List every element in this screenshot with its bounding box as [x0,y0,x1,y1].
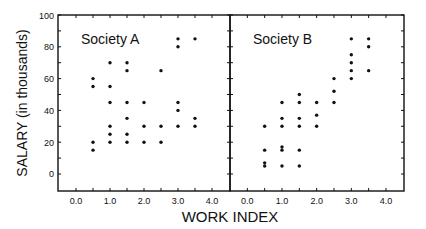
data-point [125,133,128,136]
data-point [108,140,111,143]
data-point [176,45,179,48]
x-tick-label: 3.0 [345,196,358,206]
data-point [263,161,266,164]
data-point [193,37,196,40]
x-tick-label: 0.0 [241,196,254,206]
data-point [367,45,370,48]
data-point [280,148,283,151]
x-axis-label: WORK INDEX [182,208,279,225]
data-point [332,77,335,80]
data-point [91,85,94,88]
x-tick-label: 2.0 [310,196,323,206]
data-point [367,69,370,72]
data-point [159,69,162,72]
data-point [108,85,111,88]
data-point [91,77,94,80]
x-tick-label: 2.0 [138,196,151,206]
data-point [193,117,196,120]
data-point [159,140,162,143]
data-point [332,90,335,93]
data-point [125,140,128,143]
data-point [280,125,283,128]
scatter-chart: 0.01.02.03.04.0020406080100 0.01.02.03.0… [0,0,426,229]
data-point [280,145,283,148]
data-point [193,125,196,128]
data-point [315,125,318,128]
y-tick-label: 20 [44,138,54,148]
data-point [176,125,179,128]
data-point [176,109,179,112]
data-point [142,140,145,143]
y-tick-label: 80 [44,42,54,52]
y-tick-label: 100 [39,11,54,21]
data-point [280,101,283,104]
data-point [125,117,128,120]
x-tick-label: 1.0 [276,196,289,206]
data-point [280,117,283,120]
data-point [108,101,111,104]
data-point [315,101,318,104]
data-point [298,93,301,96]
y-tick-label: 0 [49,169,54,179]
data-point [125,69,128,72]
data-point [176,37,179,40]
panel-b-title: Society B [253,31,312,47]
data-point [142,101,145,104]
data-point [108,61,111,64]
data-point [315,113,318,116]
y-tick-label: 60 [44,74,54,84]
x-tick-label: 0.0 [70,196,83,206]
data-point [159,125,162,128]
data-point [142,125,145,128]
data-point [280,164,283,167]
data-point [350,53,353,56]
x-tick-label: 4.0 [380,196,393,206]
data-point [298,164,301,167]
data-point [298,117,301,120]
data-point [298,148,301,151]
data-point [263,164,266,167]
data-point [298,101,301,104]
data-point [350,69,353,72]
data-point [263,125,266,128]
y-axis-label: SALARY (in thousands) [14,29,30,176]
data-point [108,125,111,128]
data-point [350,77,353,80]
data-point [367,37,370,40]
data-point [125,61,128,64]
data-point [91,148,94,151]
data-point [332,101,335,104]
y-tick-label: 40 [44,106,54,116]
x-tick-label: 4.0 [206,196,219,206]
x-tick-label: 3.0 [172,196,185,206]
data-point [350,37,353,40]
x-tick-label: 1.0 [104,196,117,206]
data-point [350,61,353,64]
panel-a-title: Society A [81,31,140,47]
data-point [298,125,301,128]
data-point [176,101,179,104]
data-point [108,133,111,136]
data-point [91,140,94,143]
data-point [263,148,266,151]
data-point [125,101,128,104]
